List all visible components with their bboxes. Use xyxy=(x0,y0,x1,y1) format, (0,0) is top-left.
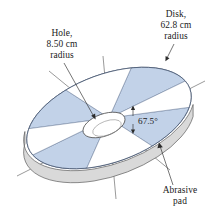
abrasive-leader-line xyxy=(160,146,173,185)
disk-annotation: Disk, 62.8 cm radius xyxy=(161,9,193,61)
hole-label-line3: radius xyxy=(50,50,74,60)
abrasive-label-line2: pad xyxy=(173,196,187,206)
disk-figure: 67.5° Disk, 62.8 cm radius Hole, 8.50 cm… xyxy=(0,0,220,217)
disk-label-line2: 62.8 cm xyxy=(161,20,193,30)
disk-label-line3: radius xyxy=(164,31,188,41)
hole-label-line2: 8.50 cm xyxy=(47,39,79,49)
abrasive-label-line1: Abrasive xyxy=(163,185,198,195)
disk-diagram-svg: 67.5° Disk, 62.8 cm radius Hole, 8.50 cm… xyxy=(0,0,220,217)
disk-label-line1: Disk, xyxy=(166,9,187,19)
angle-label: 67.5° xyxy=(138,116,158,126)
hole-label-line1: Hole, xyxy=(51,28,72,38)
disk-leader-line xyxy=(167,44,174,58)
